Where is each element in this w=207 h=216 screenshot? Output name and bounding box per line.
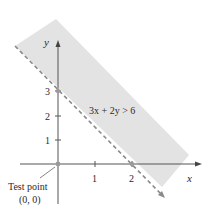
- point-x-intercept: [130, 162, 134, 166]
- test-point-label: Test point: [8, 181, 48, 192]
- x-axis-arrow-icon: [195, 162, 202, 167]
- tick-label-x2: 2: [129, 173, 134, 184]
- tick-label-y1: 1: [45, 135, 50, 146]
- tick-label-x1: 1: [92, 173, 97, 184]
- test-point: [56, 162, 61, 167]
- test-point-pointer: [40, 167, 55, 178]
- tick-label-y2: 2: [45, 111, 50, 122]
- test-point-coords: (0, 0): [19, 194, 41, 206]
- y-axis-label: y: [43, 36, 49, 48]
- shaded-region: [15, 19, 189, 187]
- inequality-graph: y x 1 2 1 2 3 3x + 2y > 6 Test point (0,…: [0, 0, 207, 216]
- x-axis-label: x: [186, 172, 192, 184]
- inequality-label: 3x + 2y > 6: [89, 105, 135, 116]
- tick-label-y3: 3: [45, 86, 50, 97]
- point-y-intercept: [56, 89, 60, 93]
